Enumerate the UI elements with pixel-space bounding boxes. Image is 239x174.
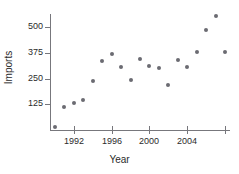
data-point	[62, 105, 66, 109]
y-axis-tick-label: 375	[3, 48, 43, 57]
x-axis-tick-label: 1996	[92, 136, 132, 146]
data-point	[81, 98, 85, 102]
data-point	[185, 65, 189, 69]
data-point	[110, 52, 114, 56]
data-point	[100, 59, 104, 63]
data-point	[72, 101, 76, 105]
plot-area	[50, 12, 230, 130]
data-point	[166, 83, 170, 87]
x-axis-title: Year	[0, 154, 239, 165]
data-point	[91, 79, 95, 83]
data-point	[204, 28, 208, 32]
y-axis-tick-label: 500	[3, 22, 43, 31]
data-point	[195, 50, 199, 54]
data-point	[129, 78, 133, 82]
y-axis-title: Imports	[3, 38, 14, 98]
data-point	[119, 65, 123, 69]
x-axis-tick-label: 2004	[167, 136, 207, 146]
scatter-chart-figure: Imports 125250375500 1992199620002004 Ye…	[0, 0, 239, 174]
data-point	[176, 58, 180, 62]
data-point	[157, 66, 161, 70]
data-point	[138, 57, 142, 61]
data-point	[147, 64, 151, 68]
data-point	[214, 14, 218, 18]
x-axis-line	[50, 130, 230, 131]
y-axis-tick-label: 125	[3, 99, 43, 108]
data-point	[223, 50, 227, 54]
data-point	[53, 125, 57, 129]
x-axis-tick-label: 1992	[54, 136, 94, 146]
x-axis-tick-label: 2000	[129, 136, 169, 146]
y-axis-tick-label: 250	[3, 74, 43, 83]
